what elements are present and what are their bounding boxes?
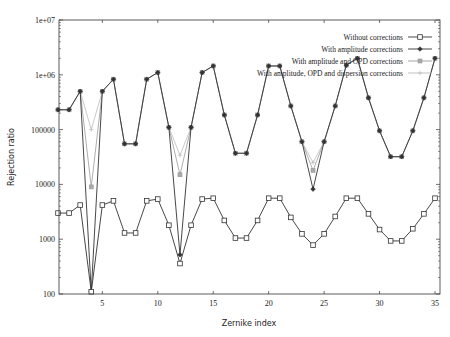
series-layer — [56, 56, 438, 294]
y-axis-title: Rejection ratio — [7, 128, 16, 186]
x-tick-label: 25 — [320, 299, 328, 308]
x-tick-label: 10 — [154, 299, 162, 308]
legend-label: With amplitude corrections — [321, 45, 403, 54]
x-axis-title: Zernike index — [222, 319, 277, 328]
legend-label: With amplitude, OPD and dispersion corre… — [257, 69, 403, 78]
x-tick-label: 15 — [209, 299, 217, 308]
legend-label: With amplitude and OPD corrections — [292, 57, 403, 66]
x-tick-label: 5 — [100, 299, 104, 308]
series-1 — [56, 196, 438, 294]
series-2 — [56, 56, 438, 294]
chart: 51015202530351001000100001000001e+061e+0… — [0, 0, 450, 337]
x-tick-label: 20 — [265, 299, 273, 308]
y-tick-label: 10000 — [35, 180, 55, 189]
y-tick-label: 1e+07 — [35, 16, 55, 25]
y-tick-label: 100 — [43, 290, 55, 299]
x-tick-label: 30 — [376, 299, 384, 308]
legend-label: Without corrections — [344, 33, 404, 42]
y-tick-label: 1000 — [39, 235, 55, 244]
legend: Without correctionsWith amplitude correc… — [257, 33, 432, 78]
y-tick-label: 1e+06 — [35, 71, 55, 80]
x-tick-label: 35 — [431, 299, 439, 308]
y-tick-label: 100000 — [31, 126, 55, 135]
